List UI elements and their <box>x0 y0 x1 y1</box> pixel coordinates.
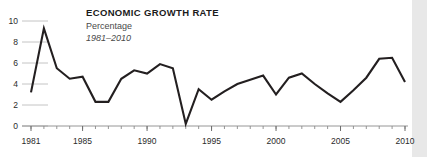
y-tick-label-4: 4 <box>2 79 18 89</box>
x-tick-label-2010: 2010 <box>385 136 425 146</box>
chart-subtitle: Percentage <box>86 20 219 32</box>
x-tick-label-1995: 1995 <box>192 136 232 146</box>
chart-figure: ECONOMIC GROWTH RATE Percentage 1981–201… <box>0 0 427 157</box>
chart-period: 1981–2010 <box>86 32 219 44</box>
x-tick-label-2000: 2000 <box>256 136 296 146</box>
y-tick-label-6: 6 <box>2 58 18 68</box>
y-tick-label-8: 8 <box>2 37 18 47</box>
x-tick-label-2005: 2005 <box>321 136 361 146</box>
x-tick-label-1990: 1990 <box>127 136 167 146</box>
x-axis-major-ticks <box>31 126 405 131</box>
x-tick-label-1985: 1985 <box>63 136 103 146</box>
y-tick-label-2: 2 <box>2 100 18 110</box>
chart-title: ECONOMIC GROWTH RATE <box>86 7 219 19</box>
x-tick-label-1981: 1981 <box>11 136 51 146</box>
title-block: ECONOMIC GROWTH RATE Percentage 1981–201… <box>86 7 219 44</box>
y-tick-label-10: 10 <box>2 16 18 26</box>
y-tick-label-0: 0 <box>2 121 18 131</box>
